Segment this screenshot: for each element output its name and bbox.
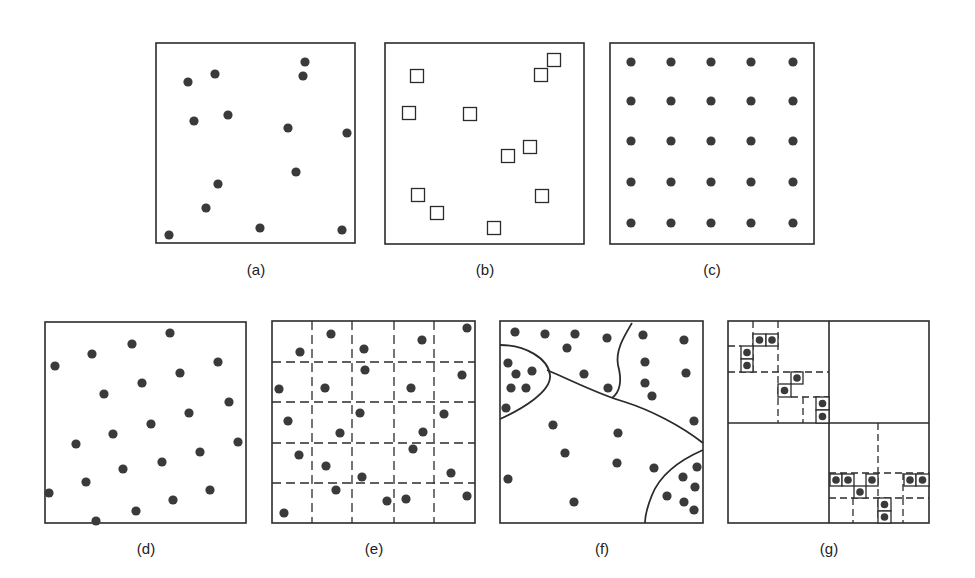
sample-point-icon <box>503 474 512 483</box>
sample-point-icon <box>548 420 557 429</box>
sample-point-icon <box>283 416 292 425</box>
panel-frame <box>156 43 355 243</box>
sample-square-icon <box>502 150 515 163</box>
sample-point-icon <box>678 472 687 481</box>
sample-point-icon <box>844 476 852 484</box>
sample-square-icon <box>548 54 561 67</box>
sample-point-icon <box>560 448 569 457</box>
region-boundary <box>612 323 632 398</box>
sample-point-icon <box>331 485 340 494</box>
sample-point-icon <box>462 323 471 332</box>
sample-point-icon <box>294 450 303 459</box>
sample-point-icon <box>569 497 578 506</box>
sample-point-icon <box>418 427 427 436</box>
sample-point-icon <box>819 413 827 421</box>
sample-point-icon <box>175 368 184 377</box>
sample-point-icon <box>746 177 755 186</box>
sample-point-icon <box>210 69 219 78</box>
sample-square-icon <box>464 108 477 121</box>
sample-point-icon <box>189 116 198 125</box>
sample-point-icon <box>50 361 59 370</box>
sample-point-icon <box>342 128 351 137</box>
sample-point-icon <box>44 488 53 497</box>
sample-point-icon <box>205 485 214 494</box>
sample-point-icon <box>183 77 192 86</box>
sample-point-icon <box>417 335 426 344</box>
sample-point-icon <box>666 218 675 227</box>
sample-point-icon <box>326 329 335 338</box>
sample-point-icon <box>781 387 789 395</box>
sample-point-icon <box>87 349 96 358</box>
sample-point-icon <box>706 218 715 227</box>
sample-point-icon <box>274 384 283 393</box>
sample-point-icon <box>195 447 204 456</box>
sample-point-icon <box>99 389 108 398</box>
sample-point-icon <box>511 369 520 378</box>
sample-point-icon <box>706 96 715 105</box>
sample-point-icon <box>832 476 840 484</box>
sample-point-icon <box>788 177 797 186</box>
sample-point-icon <box>788 96 797 105</box>
sample-point-icon <box>689 416 698 425</box>
sample-point-icon <box>131 506 140 515</box>
sample-point-icon <box>689 505 698 514</box>
panel-frame <box>45 322 246 523</box>
sample-point-icon <box>360 365 369 374</box>
sample-point-icon <box>881 513 889 521</box>
sample-square-icon <box>524 141 537 154</box>
sample-point-icon <box>570 329 579 338</box>
sample-point-icon <box>706 136 715 145</box>
sample-point-icon <box>649 463 658 472</box>
sample-point-icon <box>201 203 210 212</box>
sample-point-icon <box>501 403 510 412</box>
sampling-patterns-figure <box>0 0 975 578</box>
sample-point-icon <box>223 110 232 119</box>
sample-point-icon <box>626 96 635 105</box>
sample-point-icon <box>320 383 329 392</box>
sample-point-icon <box>382 496 391 505</box>
sample-point-icon <box>562 343 571 352</box>
sample-point-icon <box>743 362 751 370</box>
panel-e <box>272 321 475 523</box>
sample-point-icon <box>462 491 471 500</box>
sample-point-icon <box>746 218 755 227</box>
sample-point-icon <box>439 409 448 418</box>
sample-point-icon <box>612 458 621 467</box>
sample-point-icon <box>321 461 330 470</box>
sample-point-icon <box>521 383 530 392</box>
sample-point-icon <box>746 96 755 105</box>
sample-point-icon <box>168 495 177 504</box>
sample-point-icon <box>638 330 647 339</box>
sample-point-icon <box>647 391 656 400</box>
panel-c <box>610 43 814 244</box>
sample-point-icon <box>681 368 690 377</box>
sample-point-icon <box>224 397 233 406</box>
sample-point-icon <box>856 488 864 496</box>
sample-point-icon <box>690 482 699 491</box>
sample-point-icon <box>184 408 193 417</box>
sample-square-icon <box>488 222 501 235</box>
panel-g <box>728 321 929 523</box>
sample-point-icon <box>666 96 675 105</box>
sample-point-icon <box>355 408 364 417</box>
panel-d <box>44 322 246 526</box>
sample-point-icon <box>527 366 536 375</box>
sample-point-icon <box>788 136 797 145</box>
sample-point-icon <box>746 57 755 66</box>
sample-point-icon <box>298 71 307 80</box>
sample-point-icon <box>91 516 100 525</box>
sample-point-icon <box>118 464 127 473</box>
sample-point-icon <box>457 370 466 379</box>
sample-point-icon <box>137 378 146 387</box>
sample-point-icon <box>359 344 368 353</box>
sample-point-icon <box>640 378 649 387</box>
sample-point-icon <box>746 136 755 145</box>
sample-point-icon <box>164 230 173 239</box>
sample-point-icon <box>300 57 309 66</box>
sample-point-icon <box>679 497 688 506</box>
sample-point-icon <box>337 225 346 234</box>
sample-point-icon <box>291 167 300 176</box>
sample-point-icon <box>357 472 366 481</box>
sample-point-icon <box>626 218 635 227</box>
sample-point-icon <box>165 328 174 337</box>
